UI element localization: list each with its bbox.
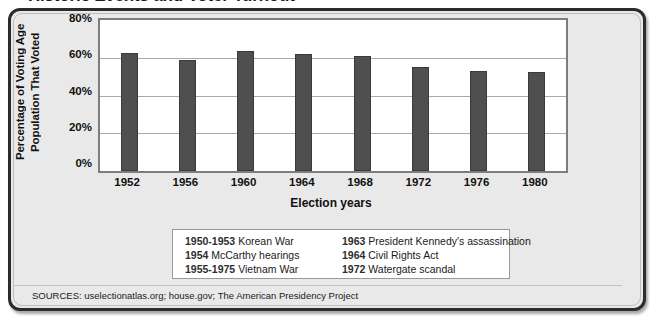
note-year: 1972 [342, 263, 365, 275]
y-tick-0: 0% [52, 157, 92, 169]
y-tick-80: 80% [52, 12, 92, 24]
bar-1960 [237, 51, 254, 171]
y-axis-tick-labels: 80% 60% 40% 20% 0% [52, 0, 92, 324]
bar-1952 [121, 53, 138, 171]
x-tick-1964: 1964 [272, 176, 332, 188]
x-tick-1952: 1952 [97, 176, 157, 188]
x-tick-1980: 1980 [505, 176, 565, 188]
bar-1972 [412, 67, 429, 171]
x-tick-1976: 1976 [447, 176, 507, 188]
note-year: 1964 [342, 249, 365, 261]
x-tick-1956: 1956 [155, 176, 215, 188]
bar-1964 [295, 54, 312, 171]
bar-1980 [528, 72, 545, 171]
notes-column-right: 1963 President Kennedy's assassination19… [334, 234, 509, 278]
figure-container: Historic Events and Voter Turnout Percen… [0, 0, 670, 324]
bar-1968 [354, 56, 371, 171]
y-axis-title-line1: Percentage of Voting Age [14, 6, 26, 178]
x-tick-1960: 1960 [214, 176, 274, 188]
sources-line: SOURCES: uselectionatlas.org; house.gov;… [32, 290, 358, 301]
y-axis-title: Percentage of Voting Age Population That… [14, 6, 56, 178]
note-year: 1954 [185, 249, 208, 261]
note-row: 1950-1953 Korean War [185, 234, 334, 248]
note-text: President Kennedy's assassination [368, 235, 531, 247]
note-row: 1954 McCarthy hearings [185, 248, 334, 262]
bar-1976 [470, 71, 487, 171]
x-tick-1968: 1968 [330, 176, 390, 188]
plot-area [98, 18, 568, 173]
notes-column-left: 1950-1953 Korean War1954 McCarthy hearin… [173, 234, 334, 278]
y-tick-40: 40% [52, 85, 92, 97]
note-year: 1955-1975 [185, 263, 235, 275]
y-axis-title-line2: Population That Voted [29, 6, 41, 178]
gridline-40 [100, 96, 566, 97]
note-text: McCarthy hearings [211, 249, 299, 261]
gridline-20 [100, 133, 566, 134]
x-axis-title: Election years [98, 196, 564, 210]
historic-events-notes-box: 1950-1953 Korean War1954 McCarthy hearin… [172, 229, 510, 279]
note-row: 1955-1975 Vietnam War [185, 262, 334, 276]
bar-1956 [179, 60, 196, 171]
note-year: 1963 [342, 235, 365, 247]
x-tick-1972: 1972 [388, 176, 448, 188]
y-tick-60: 60% [52, 48, 92, 60]
note-text: Civil Rights Act [368, 249, 438, 261]
note-year: 1950-1953 [185, 235, 235, 247]
note-row: 1964 Civil Rights Act [342, 248, 509, 262]
note-row: 1963 President Kennedy's assassination [342, 234, 509, 248]
note-text: Vietnam War [238, 263, 298, 275]
y-tick-20: 20% [52, 121, 92, 133]
note-text: Watergate scandal [368, 263, 455, 275]
note-text: Korean War [238, 235, 294, 247]
note-row: 1972 Watergate scandal [342, 262, 509, 276]
gridline-60 [100, 58, 566, 59]
sources-divider [14, 285, 622, 286]
